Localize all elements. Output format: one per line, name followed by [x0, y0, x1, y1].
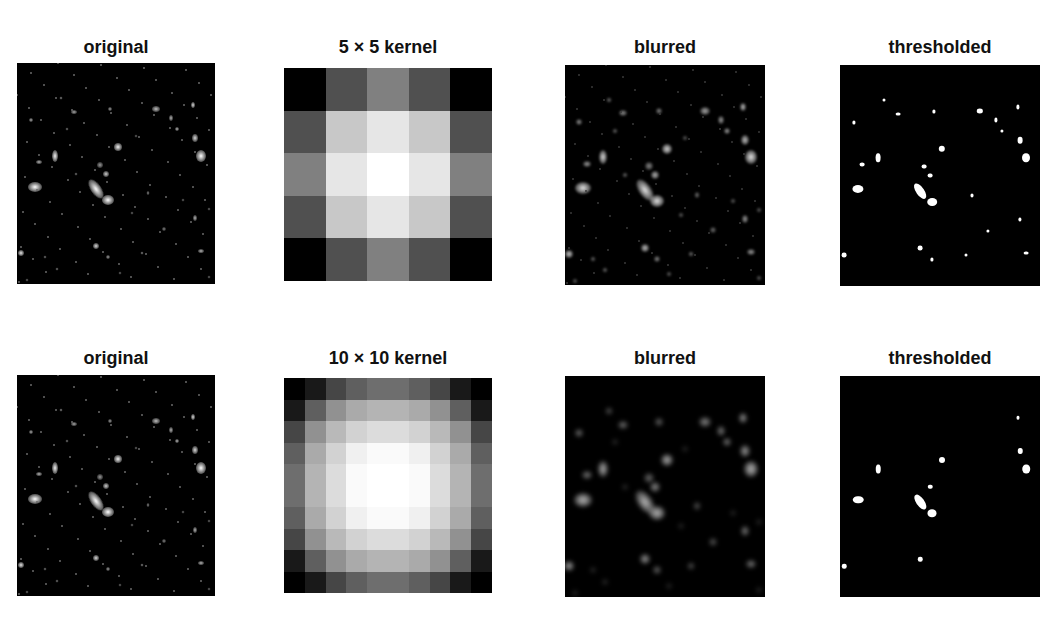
light-source — [718, 116, 724, 124]
faint-speck — [187, 256, 189, 258]
original-bottom-title: original — [0, 348, 235, 369]
faint-speck — [130, 276, 132, 278]
faint-speck — [128, 401, 130, 403]
light-source — [118, 271, 121, 274]
faint-speck — [73, 386, 75, 388]
faint-speck — [721, 94, 723, 96]
faint-speck — [580, 259, 582, 261]
light-source — [700, 107, 710, 115]
kernel-cell — [346, 443, 367, 465]
kernel-cell — [346, 464, 367, 486]
faint-speck — [735, 71, 737, 73]
light-source — [55, 579, 58, 582]
light-source — [28, 182, 42, 192]
faint-speck — [18, 593, 20, 595]
light-source — [583, 161, 591, 167]
faint-speck — [122, 194, 124, 196]
light-source — [971, 194, 974, 197]
light-source — [965, 254, 968, 257]
light-source — [25, 278, 28, 281]
faint-speck — [638, 240, 640, 242]
kernel-cell — [284, 443, 305, 465]
faint-speck — [28, 419, 30, 421]
faint-speck — [36, 189, 38, 191]
light-source — [114, 143, 122, 151]
kernel-cell — [388, 378, 409, 400]
faint-speck — [94, 481, 96, 483]
faint-speck — [32, 570, 34, 572]
kernel-cell — [284, 68, 326, 111]
faint-speck — [620, 111, 622, 113]
kernel-cell — [367, 196, 409, 239]
light-source — [740, 445, 750, 457]
faint-speck — [206, 164, 208, 166]
light-source — [654, 256, 660, 262]
kernel-cell — [305, 507, 326, 529]
kernel-cell — [284, 507, 305, 529]
faint-speck — [116, 389, 118, 391]
kernel-cell — [346, 507, 367, 529]
light-source — [744, 461, 758, 477]
kernel-cell — [326, 572, 347, 594]
faint-speck — [684, 207, 686, 209]
faint-speck — [87, 585, 89, 587]
faint-speck — [32, 258, 34, 260]
faint-speck — [634, 89, 636, 91]
light-source — [740, 103, 746, 111]
light-source — [1018, 137, 1023, 143]
kernel-title: 10 × 10 kernel — [264, 348, 512, 369]
faint-speck — [43, 84, 45, 86]
kernel-cell — [450, 443, 471, 465]
light-source — [655, 418, 663, 426]
faint-speck — [59, 560, 61, 562]
faint-speck — [169, 127, 171, 129]
light-source — [1022, 464, 1030, 473]
kernel-cell — [409, 550, 430, 572]
faint-speck — [194, 151, 196, 153]
light-source — [75, 172, 78, 175]
light-source — [607, 98, 612, 103]
faint-speck — [756, 165, 758, 167]
light-source — [103, 171, 109, 177]
kernel-cell — [409, 421, 430, 443]
faint-speck — [719, 128, 721, 130]
kernel-cell — [409, 572, 430, 594]
thresholded-bottom-title: thresholded — [820, 348, 1055, 369]
kernel-cell — [284, 238, 326, 281]
faint-speck — [185, 381, 187, 383]
light-source — [745, 150, 757, 164]
faint-speck — [589, 121, 591, 123]
kernel-cell — [284, 196, 326, 239]
faint-speck — [758, 131, 760, 133]
kernel-cell — [326, 464, 347, 486]
light-source — [1018, 217, 1021, 222]
kernel-cell — [346, 378, 367, 400]
faint-speck — [17, 406, 18, 408]
kernel-cell — [450, 529, 471, 551]
faint-speck — [155, 391, 157, 393]
kernel-cell — [367, 443, 388, 465]
faint-speck — [692, 69, 694, 71]
faint-speck — [599, 168, 601, 170]
faint-speck — [17, 94, 18, 96]
kernel-cell — [471, 529, 492, 551]
light-source — [747, 249, 755, 255]
faint-speck — [75, 261, 77, 263]
light-source — [565, 250, 573, 258]
original-image-bottom — [17, 375, 215, 596]
faint-speck — [104, 528, 106, 530]
light-source — [613, 129, 618, 134]
light-source — [699, 417, 711, 427]
light-source — [599, 150, 607, 164]
faint-speck — [153, 426, 155, 428]
kernel-cell — [284, 464, 305, 486]
light-source — [623, 173, 628, 178]
faint-speck — [679, 277, 681, 279]
light-source — [191, 102, 195, 108]
faint-speck — [94, 169, 96, 171]
kernel-cell — [305, 464, 326, 486]
faint-speck — [40, 119, 42, 121]
faint-speck — [636, 274, 638, 276]
light-source — [75, 484, 78, 487]
faint-speck — [122, 506, 124, 508]
